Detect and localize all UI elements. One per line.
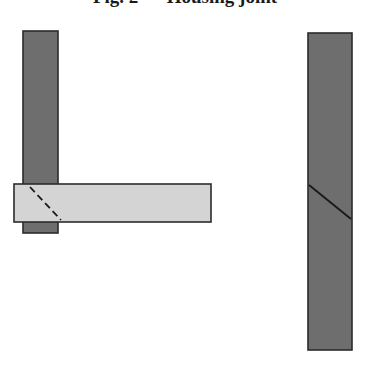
- assembly-assembled-joint: [14, 31, 211, 233]
- vertical-bar: [308, 33, 352, 350]
- joint-drawing-canvas: [0, 0, 370, 371]
- assembly-separated-member: [308, 33, 352, 350]
- horizontal-rail: [14, 184, 211, 222]
- joint-diagram-figure: Fig. 2 — Housing joint: [0, 0, 370, 371]
